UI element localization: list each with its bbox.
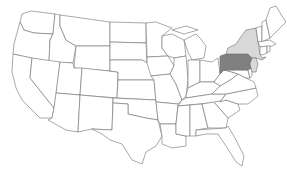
state-new-mexico[interactable] xyxy=(78,95,113,132)
state-florida[interactable] xyxy=(196,126,244,166)
state-maine[interactable] xyxy=(266,6,286,38)
us-map-svg xyxy=(0,0,287,182)
state-wyoming[interactable] xyxy=(74,46,110,71)
state-iowa[interactable] xyxy=(147,56,174,76)
state-kansas[interactable] xyxy=(117,80,156,100)
state-north-dakota[interactable] xyxy=(110,22,146,43)
state-mississippi[interactable] xyxy=(176,105,190,136)
us-map xyxy=(0,0,287,182)
state-colorado[interactable] xyxy=(80,68,118,98)
state-new-jersey[interactable] xyxy=(250,58,258,72)
state-connecticut[interactable] xyxy=(260,46,267,55)
state-arkansas[interactable] xyxy=(156,102,178,124)
state-rhode-island[interactable] xyxy=(267,46,270,53)
